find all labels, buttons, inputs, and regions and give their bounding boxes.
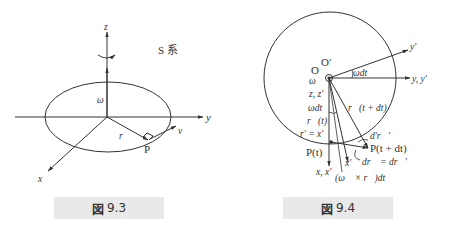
diagram-canvas: z S 系 ω⃗ y r⃗ v⃗ P x O O′ ω ωd [0, 0, 449, 230]
x-x-prime-label: x, x′ [315, 167, 332, 177]
z-axis-label: z [103, 22, 108, 32]
x-axis [48, 117, 107, 171]
r-t-dt-label: r⃗(t + dt) [348, 103, 387, 114]
figure-9-3: z S 系 ω⃗ y r⃗ v⃗ P x [15, 22, 211, 184]
p-t-label: P(t) [306, 146, 323, 159]
r-prime-eq-label: r′ = x′ [300, 129, 324, 139]
right-angle-mark [143, 133, 153, 140]
d-prime-r-vector [331, 142, 368, 148]
dr-pointer [355, 150, 360, 160]
figure-9-3-caption: 図 9.3 [54, 197, 164, 219]
omega-dt-top-label: ωdt [353, 68, 367, 78]
d-prime-arc [358, 139, 368, 142]
origin-o-prime-label: O′ [321, 56, 331, 68]
d-prime-r-label: d′r⃗′ [370, 131, 391, 141]
v-vector [150, 126, 176, 139]
p-t-dt-label: P(t + dt) [370, 142, 407, 155]
omega-label: ω⃗ [97, 95, 111, 105]
figure-9-4: O O′ ω ωdt y′ y, y′ z, z′ ωdt r⃗(t + dt)… [264, 12, 428, 184]
y-y-prime-label: y, y′ [411, 74, 428, 84]
y-axis-label: y [205, 111, 211, 123]
dr-eq-label: dr⃗ = dr⃗′ [362, 157, 408, 167]
omega-label: ω [309, 76, 316, 86]
r-label: r⃗ [119, 131, 130, 141]
figure-9-4-caption: 図 9.4 [283, 197, 393, 219]
frame-label: S 系 [158, 44, 178, 56]
x-axis-label: x [37, 174, 43, 184]
v-label: v⃗ [178, 126, 190, 136]
figure-number: 9.3 [107, 201, 126, 215]
z-z-prime-label: z, z′ [308, 89, 324, 99]
x-prime-label: x′ [344, 158, 352, 168]
figure-number: 9.4 [336, 201, 355, 215]
origin-o-label: O [311, 64, 319, 76]
figure-icon: 図 [92, 200, 104, 217]
y-prime-label: y′ [409, 42, 417, 52]
angle-arc-left [329, 112, 337, 114]
point-p-t [329, 140, 333, 144]
r-t-label: r⃗(t) [307, 116, 327, 127]
figure-icon: 図 [321, 200, 333, 217]
omega-dt-left-label: ωdt [308, 103, 322, 113]
point-p-label: P [144, 143, 150, 155]
cross-product-label: (ω⃗ × r⃗)dt [335, 173, 385, 184]
